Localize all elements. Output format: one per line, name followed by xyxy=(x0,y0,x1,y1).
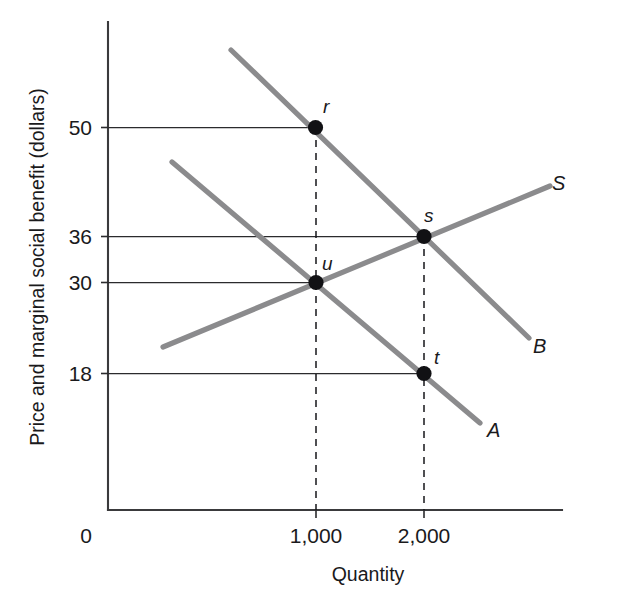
curve-B xyxy=(231,50,529,338)
x-axis-title: Quantity xyxy=(332,563,405,585)
y-axis-title: Price and marginal social benefit (dolla… xyxy=(26,88,48,446)
data-point-s xyxy=(416,229,431,244)
data-point-u xyxy=(308,275,323,290)
point-label-s: s xyxy=(424,205,434,226)
curve-S xyxy=(163,186,550,347)
data-point-r xyxy=(308,120,323,135)
curve-label-B: B xyxy=(533,335,546,357)
data-point-t xyxy=(416,366,431,381)
curve-A xyxy=(172,162,480,423)
point-label-t: t xyxy=(434,347,440,368)
y-tick-label-30: 30 xyxy=(69,271,92,294)
x-tick-label-1000: 1,000 xyxy=(290,524,343,547)
x-tick-label-2000: 2,000 xyxy=(398,524,451,547)
point-label-u: u xyxy=(322,253,333,274)
curve-label-S: S xyxy=(552,172,566,194)
x-tick-label-0: 0 xyxy=(80,524,92,547)
y-tick-label-18: 18 xyxy=(69,362,92,385)
curve-label-A: A xyxy=(486,419,500,441)
y-tick-label-36: 36 xyxy=(69,225,92,248)
point-label-r: r xyxy=(323,96,330,117)
economics-chart: r s u t S B A 50 36 30 18 0 1,000 2,000 … xyxy=(0,0,625,604)
chart-canvas: r s u t S B A 50 36 30 18 0 1,000 2,000 … xyxy=(0,0,625,604)
y-tick-label-50: 50 xyxy=(69,116,92,139)
